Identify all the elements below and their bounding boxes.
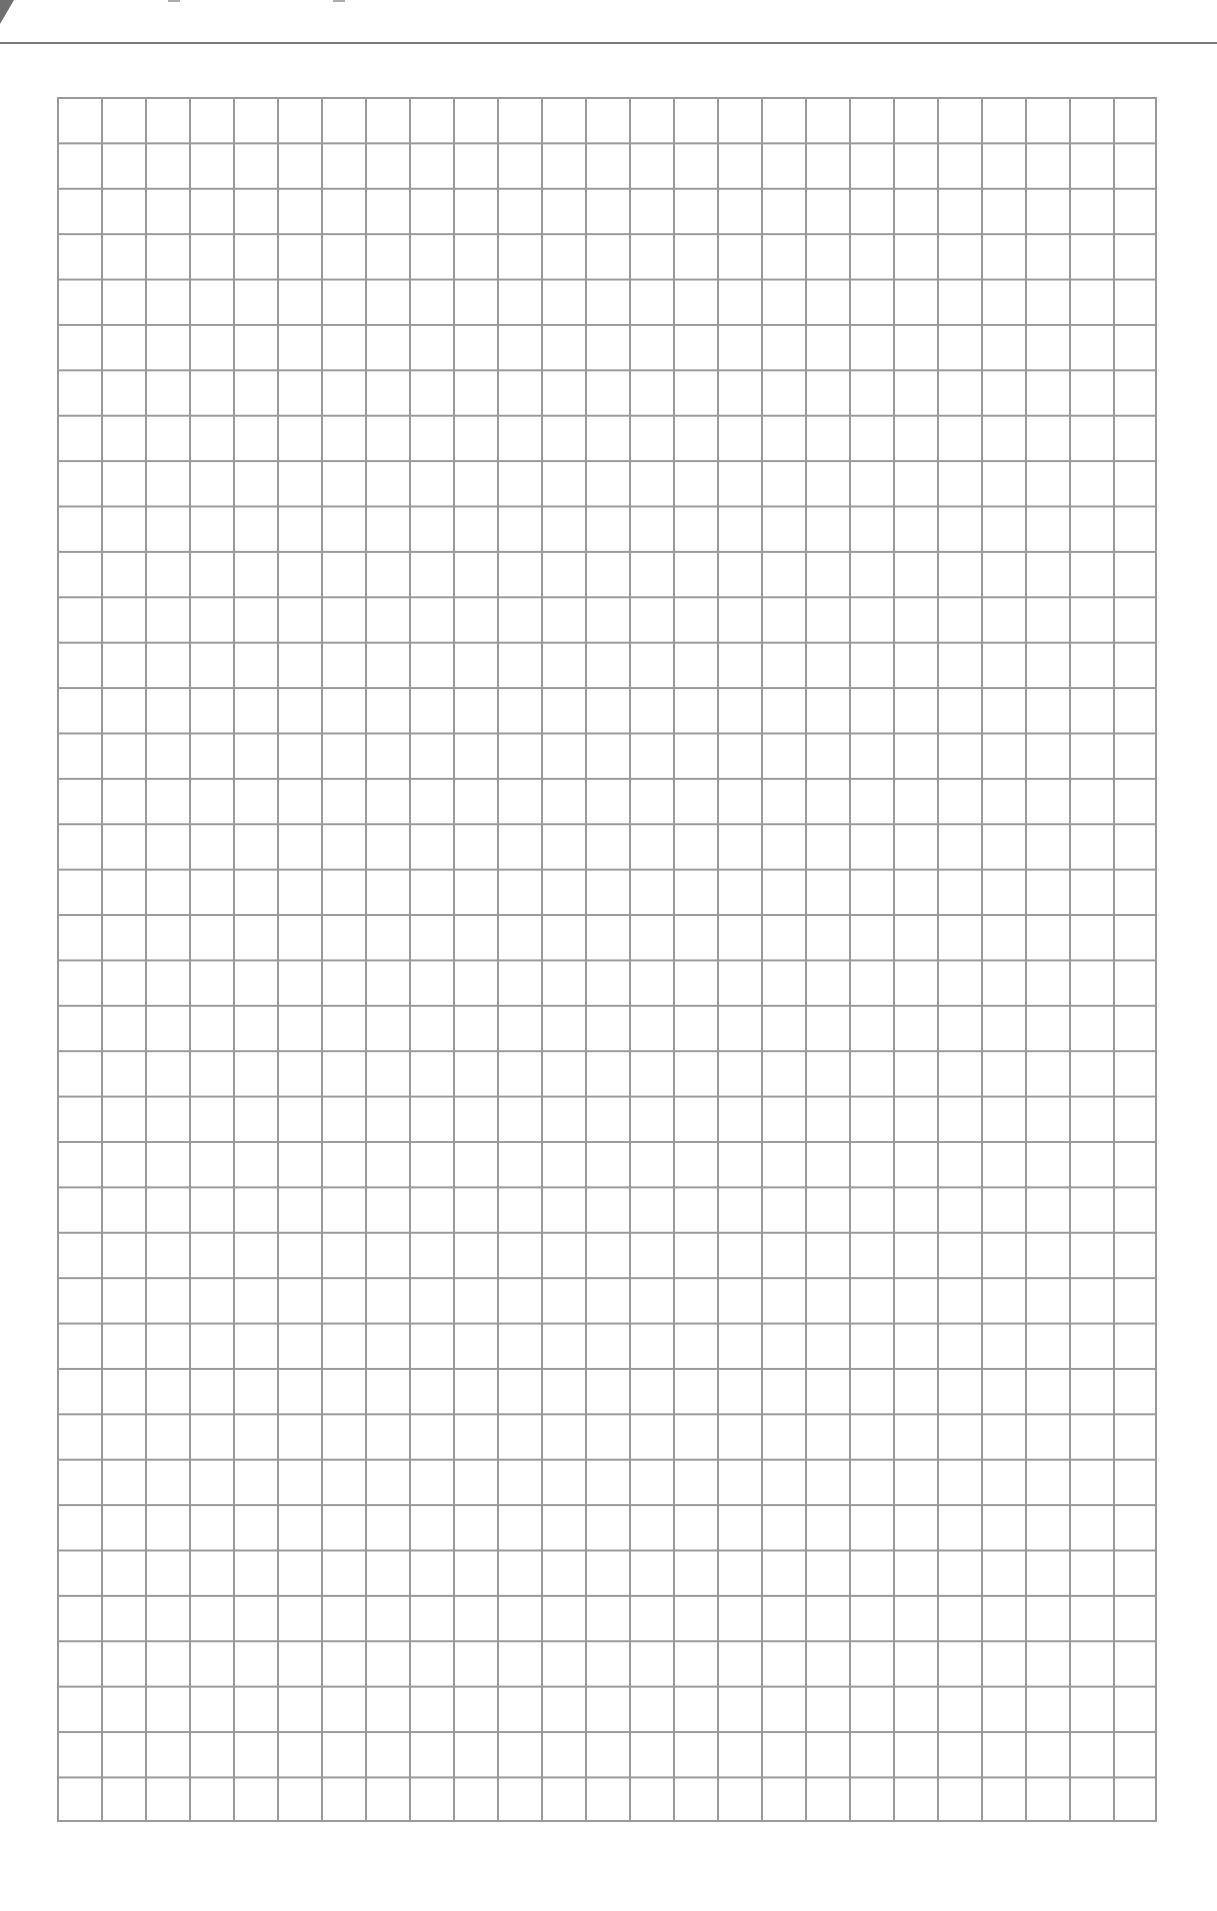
graph-paper-grid: Blank graph paper grid, 25 columns by 38… bbox=[57, 97, 1157, 1822]
grid-label: Blank graph paper grid, 25 columns by 38… bbox=[59, 99, 60, 100]
header-divider bbox=[0, 42, 1217, 44]
cut-off-title-glyph bbox=[168, 0, 180, 2]
cut-off-title-glyph bbox=[333, 0, 345, 2]
corner-tab-decoration bbox=[0, 0, 14, 24]
